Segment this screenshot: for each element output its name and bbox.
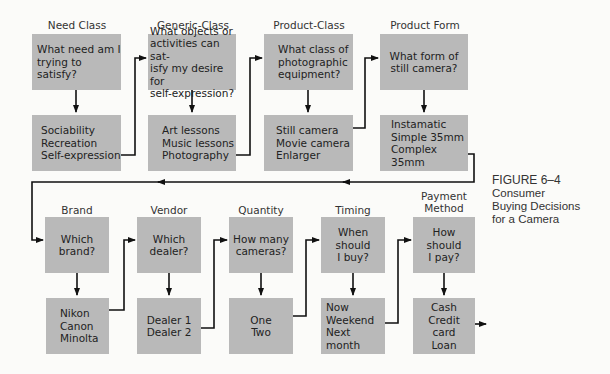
header-payment-method: Payment Method — [411, 190, 477, 214]
question-box-brand: Which brand? — [45, 217, 109, 273]
header-need-class: Need Class — [32, 19, 122, 31]
question-box-generic-class: What objects or activities can sat- isfy… — [148, 34, 236, 90]
figure-title-line: Consumer — [492, 187, 580, 200]
answer-box-need-class: Sociability Recreation Self-expression — [32, 115, 121, 171]
header-brand: Brand — [45, 204, 109, 216]
answer-text: Now Weekend Next month — [326, 301, 385, 351]
answer-box-brand: Nikon Canon Minolta — [46, 298, 109, 354]
answer-text: Still camera Movie camera Enlarger — [276, 124, 350, 162]
question-text: What need am I trying to satisfy? — [37, 43, 121, 81]
answer-text: Art lessons Music lessons Photography — [162, 124, 234, 162]
answer-text: Nikon Canon Minolta — [60, 307, 99, 345]
header-vendor: Vendor — [137, 204, 201, 216]
answer-text: Instamatic Simple 35mm Complex 35mm — [391, 118, 468, 168]
figure-title-line: Buying Decisions — [492, 200, 580, 213]
question-box-quantity: How many cameras? — [229, 217, 293, 273]
header-timing: Timing — [321, 204, 385, 216]
answer-box-product-class: Still camera Movie camera Enlarger — [264, 115, 353, 171]
header-quantity: Quantity — [229, 204, 293, 216]
question-text: When should I buy? — [336, 226, 371, 264]
figure-caption: FIGURE 6–4 Consumer Buying Decisions for… — [492, 174, 580, 226]
answer-box-payment-method: Cash Credit card Loan — [413, 298, 475, 354]
question-text: How should I pay? — [427, 226, 462, 264]
answer-box-timing: Now Weekend Next month — [321, 298, 385, 354]
answer-box-vendor: Dealer 1 Dealer 2 — [137, 298, 201, 354]
figure-title-line: for a Camera — [492, 213, 580, 226]
question-box-need-class: What need am I trying to satisfy? — [32, 34, 121, 90]
header-product-form: Product Form — [380, 19, 470, 31]
answer-box-product-form: Instamatic Simple 35mm Complex 35mm — [380, 115, 468, 171]
question-text: What form of still camera? — [390, 50, 459, 75]
answer-box-generic-class: Art lessons Music lessons Photography — [148, 115, 236, 171]
answer-box-quantity: One Two — [229, 298, 293, 354]
figure-number: FIGURE 6–4 — [492, 174, 580, 187]
answer-text: Sociability Recreation Self-expression — [41, 124, 121, 162]
question-box-product-class: What class of photographic equipment? — [264, 34, 353, 90]
question-text: Which dealer? — [150, 233, 189, 258]
question-box-vendor: Which dealer? — [137, 217, 201, 273]
answer-text: One Two — [250, 314, 271, 339]
answer-text: Cash Credit card Loan — [428, 301, 460, 351]
question-box-product-form: What form of still camera? — [380, 34, 468, 90]
question-text: What class of photographic equipment? — [278, 43, 348, 81]
question-text: What objects or activities can sat- isfy… — [150, 25, 236, 100]
question-text: How many cameras? — [233, 233, 289, 258]
header-product-class: Product-Class — [264, 19, 354, 31]
answer-text: Dealer 1 Dealer 2 — [147, 314, 192, 339]
question-text: Which brand? — [59, 233, 95, 258]
question-box-timing: When should I buy? — [321, 217, 385, 273]
question-box-payment-method: How should I pay? — [413, 217, 475, 273]
